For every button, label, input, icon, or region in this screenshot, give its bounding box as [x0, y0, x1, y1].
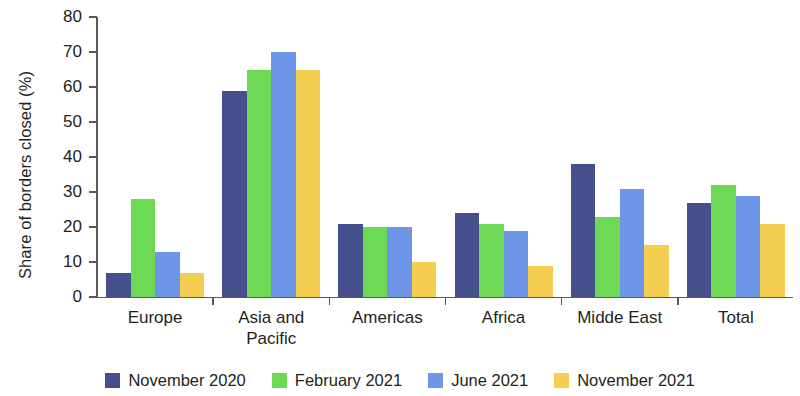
- legend-swatch-icon: [428, 373, 443, 388]
- bar: [528, 266, 553, 298]
- y-axis-tick-label: 40: [22, 148, 82, 165]
- y-axis-tick: [89, 121, 97, 123]
- x-axis-group-label: Asia andPacific: [213, 307, 329, 349]
- bar: [131, 199, 156, 297]
- bar: [736, 196, 761, 298]
- y-axis-tick: [89, 296, 97, 298]
- bar: [644, 245, 669, 298]
- x-axis-group-label: Total: [678, 307, 794, 328]
- bar: [271, 52, 296, 297]
- bar: [504, 231, 529, 298]
- y-axis-tick: [89, 261, 97, 263]
- y-axis-tick: [89, 156, 97, 158]
- legend-swatch-icon: [272, 373, 287, 388]
- x-axis-group-label-line: Africa: [446, 307, 562, 328]
- y-axis-tick-label: 70: [22, 43, 82, 60]
- legend-item[interactable]: November 2021: [554, 371, 694, 390]
- y-axis-tick-label: 0: [22, 288, 82, 305]
- x-axis-tick: [212, 297, 214, 305]
- y-axis-tick: [89, 86, 97, 88]
- legend-swatch-icon: [554, 373, 569, 388]
- legend-label: June 2021: [451, 371, 528, 390]
- bar: [387, 227, 412, 297]
- legend-item[interactable]: June 2021: [428, 371, 528, 390]
- bar: [106, 273, 131, 298]
- bar: [155, 252, 180, 298]
- bar: [455, 213, 480, 297]
- y-axis-title: Share of borders closed (%): [10, 25, 40, 325]
- x-axis-group-label-line: Midde East: [562, 307, 678, 328]
- y-axis-tick-label: 60: [22, 78, 82, 95]
- x-axis-tick: [677, 297, 679, 305]
- bar: [687, 203, 712, 298]
- x-axis-tick: [561, 297, 563, 305]
- bar: [222, 91, 247, 298]
- legend-item[interactable]: February 2021: [272, 371, 402, 390]
- x-axis-group-label: Africa: [446, 307, 562, 328]
- x-axis-group-label-line: Asia and: [213, 307, 329, 328]
- legend-swatch-icon: [105, 373, 120, 388]
- x-axis-tick: [445, 297, 447, 305]
- y-axis-tick: [89, 226, 97, 228]
- bar: [180, 273, 205, 298]
- y-axis-tick-label: 50: [22, 113, 82, 130]
- x-axis-group-label-line: Europe: [97, 307, 213, 328]
- bar: [363, 227, 388, 297]
- bar: [760, 224, 785, 298]
- bar: [595, 217, 620, 298]
- y-axis-tick-label: 10: [22, 253, 82, 270]
- legend-label: November 2021: [577, 371, 694, 390]
- bar: [711, 185, 736, 297]
- x-axis-tick: [329, 297, 331, 305]
- y-axis-tick-label: 20: [22, 218, 82, 235]
- x-axis-group-label-line: Total: [678, 307, 794, 328]
- bar: [412, 262, 437, 297]
- y-axis-tick-label: 30: [22, 183, 82, 200]
- x-axis-group-label: Europe: [97, 307, 213, 328]
- y-axis-tick-label: 80: [22, 8, 82, 25]
- legend-label: November 2020: [128, 371, 245, 390]
- legend-item[interactable]: November 2020: [105, 371, 245, 390]
- x-axis-group-label-line: Pacific: [213, 328, 329, 349]
- y-axis-tick: [89, 51, 97, 53]
- legend: November 2020February 2021June 2021Novem…: [0, 371, 800, 390]
- bar: [479, 224, 504, 298]
- bar-chart: Share of borders closed (%) 010203040506…: [0, 0, 800, 396]
- legend-label: February 2021: [295, 371, 402, 390]
- bar: [296, 70, 321, 298]
- bar: [571, 164, 596, 297]
- bar: [620, 189, 645, 298]
- x-axis-group-label: Americas: [329, 307, 445, 328]
- x-axis-group-label: Midde East: [562, 307, 678, 328]
- bars-layer: [97, 17, 794, 297]
- y-axis-tick: [89, 191, 97, 193]
- x-axis-group-label-line: Americas: [329, 307, 445, 328]
- y-axis-tick: [89, 16, 97, 18]
- bar: [247, 70, 272, 298]
- bar: [338, 224, 363, 298]
